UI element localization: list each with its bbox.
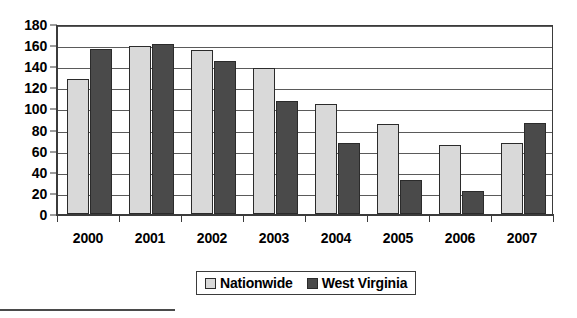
legend-label: West Virginia	[322, 275, 408, 291]
bar-group	[120, 26, 182, 214]
y-axis-tick-label: 40	[32, 165, 47, 181]
legend-swatch-icon	[205, 278, 216, 289]
y-axis-tick-label: 60	[32, 144, 47, 160]
y-axis-tick-label: 160	[24, 38, 47, 54]
x-axis-tick-mark	[119, 215, 120, 222]
x-axis-tick-mark	[181, 215, 182, 222]
y-axis: 020406080100120140160180	[0, 0, 57, 216]
x-axis-tick-label: 2000	[73, 230, 103, 246]
legend-item-nationwide[interactable]: Nationwide	[205, 275, 293, 291]
legend-label: Nationwide	[220, 275, 293, 291]
x-axis-tick-mark	[57, 215, 58, 222]
x-axis-tick-mark	[243, 215, 244, 222]
bar-west-virginia-2004	[338, 143, 360, 214]
y-axis-tick-label: 120	[24, 80, 47, 96]
x-axis-tick-label: 2003	[259, 230, 289, 246]
bar-west-virginia-2006	[462, 191, 484, 214]
footer-divider	[0, 309, 175, 311]
x-axis-tick-mark	[367, 215, 368, 222]
bar-group	[368, 26, 430, 214]
x-axis-tick-mark	[305, 215, 306, 222]
y-axis-tick-label: 180	[24, 17, 47, 33]
plot-frame	[57, 25, 553, 215]
bar-nationwide-2006	[439, 145, 461, 214]
bar-nationwide-2007	[501, 143, 523, 214]
bar-group	[430, 26, 492, 214]
y-axis-tick-label: 80	[32, 123, 47, 139]
bars-layer	[58, 26, 552, 214]
y-axis-tick-label: 140	[24, 59, 47, 75]
bar-group	[182, 26, 244, 214]
bar-west-virginia-2007	[524, 123, 546, 214]
x-axis-tick-mark	[553, 215, 554, 222]
bar-group	[244, 26, 306, 214]
bar-group	[306, 26, 368, 214]
bar-west-virginia-2001	[152, 44, 174, 214]
x-axis-tick-mark	[491, 215, 492, 222]
bar-nationwide-2003	[253, 68, 275, 214]
bar-nationwide-2004	[315, 104, 337, 214]
chart-legend: NationwideWest Virginia	[196, 271, 416, 295]
y-axis-tick-label: 0	[39, 207, 47, 223]
bar-group	[492, 26, 554, 214]
y-axis-tick-label: 100	[24, 101, 47, 117]
x-axis-tick-label: 2002	[197, 230, 227, 246]
legend-item-west-virginia[interactable]: West Virginia	[307, 275, 408, 291]
x-axis-tick-label: 2004	[321, 230, 351, 246]
x-axis-tick-label: 2001	[135, 230, 165, 246]
bar-west-virginia-2005	[400, 180, 422, 214]
x-axis-tick-mark	[429, 215, 430, 222]
x-axis-tick-label: 2007	[507, 230, 537, 246]
bar-nationwide-2005	[377, 124, 399, 214]
y-axis-tick-label: 20	[32, 186, 47, 202]
bar-nationwide-2000	[67, 79, 89, 214]
x-axis-tick-label: 2006	[445, 230, 475, 246]
bar-west-virginia-2003	[276, 101, 298, 214]
bar-nationwide-2001	[129, 46, 151, 214]
bar-west-virginia-2000	[90, 49, 112, 214]
x-axis-tick-label: 2005	[383, 230, 413, 246]
bar-group	[58, 26, 120, 214]
legend-swatch-icon	[307, 278, 318, 289]
bar-nationwide-2002	[191, 50, 213, 214]
bar-west-virginia-2002	[214, 61, 236, 214]
